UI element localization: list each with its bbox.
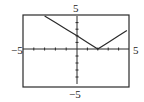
absolute-value-curve xyxy=(45,16,127,49)
x-max-label: 5 xyxy=(133,45,139,56)
tick-marks xyxy=(34,23,119,77)
y-max-label: 5 xyxy=(73,3,79,14)
y-min-label: −5 xyxy=(69,89,81,100)
x-min-label: −5 xyxy=(11,45,23,56)
axes xyxy=(23,16,129,84)
viewing-window-frame xyxy=(23,15,129,87)
